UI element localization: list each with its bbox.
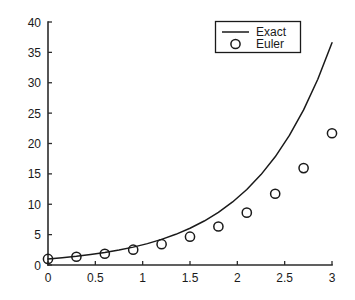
x-tick-label: 2.5 bbox=[276, 271, 293, 285]
y-tick-label: 15 bbox=[28, 167, 42, 181]
x-tick-label: 0.5 bbox=[87, 271, 104, 285]
y-tick-label: 0 bbox=[34, 259, 41, 273]
x-tick-label: 1.5 bbox=[182, 271, 199, 285]
y-tick-label: 30 bbox=[28, 76, 42, 90]
x-tick-label: 3 bbox=[329, 271, 336, 285]
x-tick-label: 0 bbox=[45, 271, 52, 285]
x-tick-label: 2 bbox=[234, 271, 241, 285]
legend-label-euler: Euler bbox=[256, 37, 284, 51]
figure-canvas: 0510152025303540 00.511.522.53 Exact Eul… bbox=[0, 0, 355, 300]
y-tick-label: 40 bbox=[28, 16, 42, 30]
y-tick-label: 25 bbox=[28, 107, 42, 121]
exact-vs-euler-plot: 0510152025303540 00.511.522.53 Exact Eul… bbox=[0, 0, 355, 300]
x-tick-label: 1 bbox=[139, 271, 146, 285]
y-tick-label: 20 bbox=[28, 137, 42, 151]
plot-background bbox=[0, 0, 355, 300]
y-tick-label: 5 bbox=[34, 228, 41, 242]
y-tick-label: 10 bbox=[28, 198, 42, 212]
y-tick-label: 35 bbox=[28, 46, 42, 60]
legend[interactable]: Exact Euler bbox=[216, 22, 301, 53]
